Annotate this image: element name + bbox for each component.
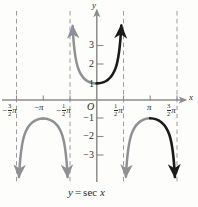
figure-caption: y=sec x [68,186,105,198]
caption-equals: = [73,186,83,198]
x-tick-pi: π [12,105,17,115]
y-tick-label-neg-2: −2 [80,131,94,141]
x-tick-sign: − [2,105,7,115]
x-tick-label-neg-3-2-pi: −32π [2,103,17,117]
curve-left-branch-left-half [19,119,43,177]
x-tick-pi: π [39,102,44,112]
curve-left-branch-right-half [43,119,67,177]
curve-right-branch-left-half [126,118,150,177]
y-tick-label-neg-1: −1 [80,113,94,123]
y-tick-label-neg-3: −3 [80,150,94,160]
x-tick-sign: − [56,105,61,115]
x-tick-label-neg-1-2-pi: −12π [56,103,71,117]
x-tick-label-1-2-pi: 12π [113,103,123,117]
x-tick-pi: π [171,105,176,115]
x-tick-label-3-2-pi: 32π [166,103,176,117]
x-tick-label-pi: π [147,103,152,112]
x-axis-label: x [189,93,193,102]
y-tick-label-2: 2 [84,59,94,69]
x-tick-pi: π [66,105,71,115]
caption-x: x [100,186,105,198]
curve-center-left-branch [73,26,97,83]
x-tick-pi: π [118,105,123,115]
x-tick-label-neg-pi: −π [34,103,44,112]
y-tick-label-3: 3 [84,40,94,50]
y-tick-label-1: 1 [84,79,94,89]
origin-label: O [87,102,94,112]
figure-sec-x: y x O 3 2 1 −1 −2 −3 −32π −π −12π 12π π … [0,0,198,207]
caption-function: sec [83,186,97,198]
x-tick-pi: π [147,102,152,112]
curve-center-right-branch [97,26,122,84]
curve-right-branch-right-half [150,118,175,177]
y-axis-label: y [92,1,96,10]
